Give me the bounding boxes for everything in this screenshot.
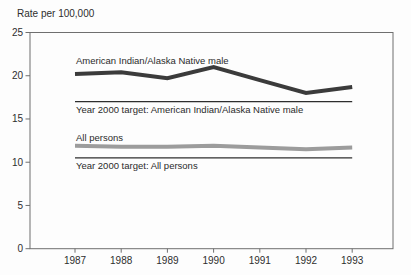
y-tick-label: 15 [12,113,24,124]
x-tick-label: 1992 [295,255,318,266]
series-label-all-persons: All persons [76,132,123,143]
y-tick-label: 25 [12,27,24,38]
series-label-year-2000-target-all-persons: Year 2000 target: All persons [76,160,198,171]
x-tick-label: 1989 [156,255,179,266]
x-tick-label: 1987 [64,255,87,266]
x-tick-label: 1990 [202,255,225,266]
series-line-2 [75,146,352,149]
x-tick-label: 1991 [249,255,272,266]
plot-area: 05101520251987198819891990199119921993 [0,0,411,275]
y-tick-label: 20 [12,70,24,81]
y-tick-label: 10 [12,157,24,168]
series-label-year-2000-target-american-indian-alaska-native-male: Year 2000 target: American Indian/Alaska… [76,104,303,115]
x-tick-label: 1988 [110,255,133,266]
y-tick-label: 5 [17,200,23,211]
series-line-0 [75,67,352,93]
series-label-american-indian-alaska-native-male: American Indian/Alaska Native male [76,55,229,66]
chart: Rate per 100,000 05101520251987198819891… [0,0,411,275]
x-tick-label: 1993 [341,255,364,266]
y-tick-label: 0 [17,243,23,254]
